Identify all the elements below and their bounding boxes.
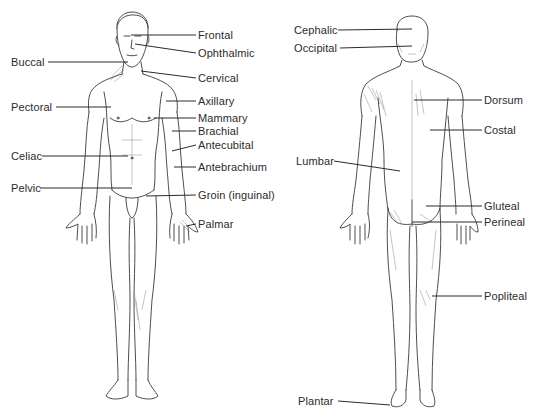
label-pelvic: Pelvic xyxy=(11,182,41,194)
label-buccal: Buccal xyxy=(11,56,45,68)
label-lumbar: Lumbar xyxy=(296,155,334,167)
label-frontal: Frontal xyxy=(198,29,233,41)
leader-lines xyxy=(40,29,482,405)
label-brachial: Brachial xyxy=(198,125,239,137)
label-axillary: Axillary xyxy=(198,95,234,107)
label-plantar: Plantar xyxy=(298,395,334,407)
label-pectoral: Pectoral xyxy=(11,101,52,113)
posterior-figure xyxy=(340,16,478,407)
anatomy-diagram: Frontal Ophthalmic Buccal Cervical Pecto… xyxy=(0,0,538,419)
label-celiac: Celiac xyxy=(11,150,42,162)
label-groin-inguinal: Groin (inguinal) xyxy=(198,189,275,201)
anterior-figure xyxy=(66,12,198,399)
label-cephalic: Cephalic xyxy=(294,24,338,36)
label-costal: Costal xyxy=(484,124,516,136)
body-figures xyxy=(0,0,538,419)
label-antebrachium: Antebrachium xyxy=(198,161,267,173)
label-palmar: Palmar xyxy=(198,218,233,230)
label-ophthalmic: Ophthalmic xyxy=(198,47,255,59)
label-dorsum: Dorsum xyxy=(484,94,523,106)
label-occipital: Occipital xyxy=(294,42,337,54)
label-popliteal: Popliteal xyxy=(484,290,527,302)
label-perineal: Perineal xyxy=(484,216,525,228)
label-cervical: Cervical xyxy=(198,72,239,84)
label-antecubital: Antecubital xyxy=(198,139,254,151)
label-gluteal: Gluteal xyxy=(484,200,520,212)
label-mammary: Mammary xyxy=(198,112,248,124)
